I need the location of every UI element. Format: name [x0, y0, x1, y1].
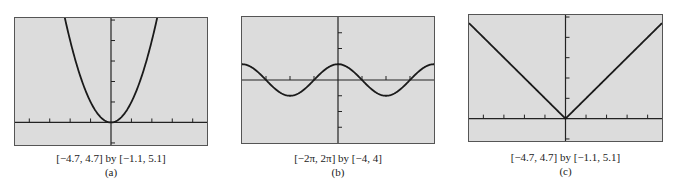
- plot-c: [468, 14, 663, 142]
- panel-c: [−4.7, 4.7] by [−1.1, 5.1] (c): [0, 0, 675, 195]
- sub-label-c: (c): [468, 164, 663, 178]
- caption-c: [−4.7, 4.7] by [−1.1, 5.1] (c): [468, 150, 663, 178]
- range-label-c: [−4.7, 4.7] by [−1.1, 5.1]: [468, 150, 663, 164]
